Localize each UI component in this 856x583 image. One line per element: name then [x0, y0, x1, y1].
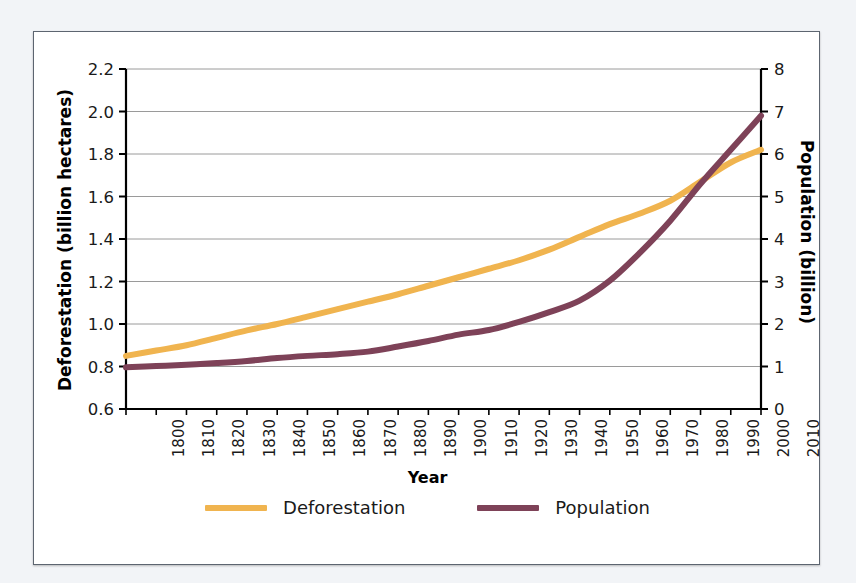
y-axis-left-title: Deforestation (billion hectares)	[55, 75, 75, 405]
legend-item-deforestation[interactable]: Deforestation	[205, 497, 405, 518]
data-series-group	[126, 116, 761, 368]
y-axis-right-tick-label: 4	[774, 230, 785, 249]
y-axis-right-tick-label: 5	[774, 187, 785, 206]
x-axis-tick-label: 2000	[775, 419, 793, 457]
x-axis-tick-label: 1830	[261, 419, 279, 457]
x-axis-tick-label: 1900	[473, 419, 491, 457]
y-axis-right-tick-label: 8	[774, 60, 785, 79]
x-axis-tick-label: 1910	[503, 419, 521, 457]
y-axis-right-tick-label: 3	[774, 272, 785, 291]
x-axis-title: Year	[34, 468, 821, 487]
gridlines-group	[126, 69, 761, 367]
x-axis-tick-label: 1870	[382, 419, 400, 457]
x-axis-tick-label: 2010	[805, 419, 823, 457]
x-axis-tick-label: 1970	[684, 419, 702, 457]
x-axis-tick-label: 1920	[533, 419, 551, 457]
x-axis-tick-label: 1800	[170, 419, 188, 457]
y-axis-right-tick-label: 7	[774, 102, 785, 121]
x-axis-tick-label: 1840	[291, 419, 309, 457]
y-axis-right-title: Population (billion)	[797, 82, 817, 382]
x-axis-tick-label: 1810	[200, 419, 218, 457]
y-axis-right-tick-label: 0	[774, 400, 785, 419]
y-axis-right-tick-label: 1	[774, 357, 785, 376]
x-axis-tick-label: 1820	[231, 419, 249, 457]
chart-figure-frame: 0.60.81.01.21.41.61.82.02.2 012345678 18…	[33, 31, 820, 565]
x-axis-tick-label: 1990	[745, 419, 763, 457]
legend-item-population[interactable]: Population	[477, 497, 650, 518]
x-axis-tick-label: 1850	[321, 419, 339, 457]
legend-label: Population	[555, 497, 650, 518]
x-axis-tick-label: 1890	[442, 419, 460, 457]
y-axis-right-tick-label: 2	[774, 315, 785, 334]
x-axis-tick-label: 1960	[654, 419, 672, 457]
x-axis-tick-label: 1930	[563, 419, 581, 457]
x-axis-tick-label: 1880	[412, 419, 430, 457]
x-axis-tick-label: 1980	[714, 419, 732, 457]
legend-label: Deforestation	[283, 497, 405, 518]
series-line-population	[126, 116, 761, 368]
y-axis-right-tick-label: 6	[774, 145, 785, 164]
x-axis-tick-label: 1950	[624, 419, 642, 457]
legend-swatch-icon	[205, 505, 267, 511]
chart-legend: DeforestationPopulation	[34, 497, 821, 518]
x-axis-tick-label: 1940	[594, 419, 612, 457]
x-axis-tick-label: 1860	[352, 419, 370, 457]
legend-swatch-icon	[477, 505, 539, 511]
series-line-deforestation	[126, 150, 761, 356]
